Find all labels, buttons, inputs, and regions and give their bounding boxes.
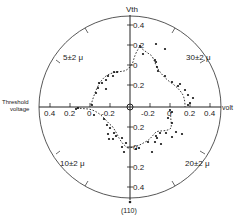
y-tick-label: 0.2 bbox=[133, 163, 145, 172]
bottom-axis-marker bbox=[129, 201, 132, 204]
quadrant-label-lower-left: 10±2 μ bbox=[60, 159, 85, 168]
y-tick-label: 0.2 bbox=[133, 123, 145, 132]
y-axis-label: Vth bbox=[126, 5, 138, 14]
y-tick-label: 0.4 bbox=[133, 21, 145, 30]
left-axis-label-line1: Threshold bbox=[2, 99, 29, 105]
left-axis-label-line2: voltage bbox=[10, 106, 30, 112]
x-tick-label: 0.4 bbox=[204, 109, 216, 118]
y-tick-label: 0 bbox=[133, 143, 138, 152]
y-tick-label: 0.2 bbox=[133, 81, 145, 90]
x-tick-label: -0.2 bbox=[141, 109, 155, 118]
x-tick-label: 0 bbox=[87, 109, 92, 118]
x-tick-label: 0.2 bbox=[64, 109, 76, 118]
x-tick-label: -0.2 bbox=[101, 109, 115, 118]
x-axis-label: volt bbox=[222, 104, 233, 111]
y-tick-label: 0.4 bbox=[133, 183, 145, 192]
polar-chart: 0.4 0.2 0 -0.2 -0.2 0 0.2 0.4 0.4 0.2 0 … bbox=[0, 0, 239, 217]
quadrant-label-upper-right: 30±2 μ bbox=[186, 53, 211, 62]
bottom-axis-label: (110) bbox=[121, 207, 137, 215]
x-tick-label: 0.2 bbox=[184, 109, 196, 118]
y-tick-label: 0.2 bbox=[133, 41, 145, 50]
y-tick-label: 0 bbox=[133, 61, 138, 70]
x-tick-label: 0.4 bbox=[44, 109, 56, 118]
quadrant-label-lower-right: 20±2 μ bbox=[185, 159, 210, 168]
quadrant-label-upper-left: 5±2 μ bbox=[63, 53, 84, 62]
